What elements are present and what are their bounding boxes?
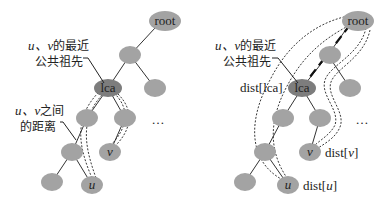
label-v-r: v [307,144,313,159]
node-b-r [339,79,361,97]
node-f-r [234,173,256,191]
node-c-r [272,109,294,127]
label-u: u [89,177,96,192]
node-e [61,143,83,161]
label-v: v [107,144,113,159]
label-dist-lca: dist[lca] [240,80,283,95]
annotation-lca-line2-r: 公共祖先 [223,54,271,69]
node-f [41,173,63,191]
left-tree: root lca v u … u、v的最近 公共祖先 u、v之间 的距离 [15,11,181,194]
label-dist-u: dist[u] [303,178,337,193]
annotation-lca-line1: u、v的最近 [28,38,89,53]
ellipsis: … [152,112,165,127]
label-lca-r: lca [294,80,309,95]
annotation-lca-line1-r: u、v的最近 [215,38,276,53]
label-root: root [155,13,176,28]
node-b [144,79,166,97]
right-tree: root lca v u … u、v的最近 公共祖先 dist[lca] dis… [215,11,374,194]
node-d [114,109,136,127]
annotation-distance-line1: u、v之间 [15,103,64,118]
lca-diagram: root lca v u … u、v的最近 公共祖先 u、v之间 的距离 [0,0,390,205]
node-d-r [309,109,331,127]
node-a [119,46,141,64]
node-e-r [254,143,276,161]
node-c [76,109,98,127]
leader-distance [60,122,76,140]
ellipsis-r: … [356,112,369,127]
label-lca: lca [100,80,115,95]
label-u-r: u [285,177,292,192]
label-root-r: root [348,13,369,28]
label-dist-v: dist[v] [325,145,358,160]
annotation-lca-line2: 公共祖先 [35,54,83,69]
annotation-distance-line2: 的距离 [20,119,56,134]
node-a-r [319,46,341,64]
